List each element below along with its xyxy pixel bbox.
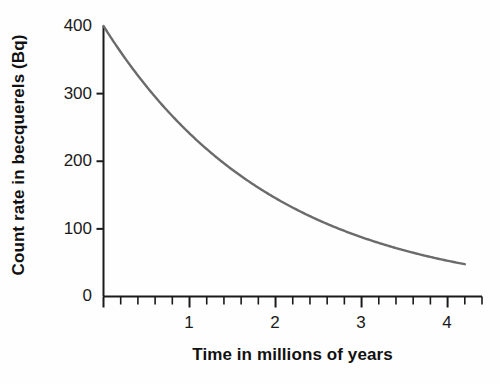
x-axis-title: Time in millions of years xyxy=(103,345,482,365)
decay-curve xyxy=(104,26,465,264)
x-tick-marks xyxy=(104,297,483,308)
x-tick-label-2: 2 xyxy=(270,313,279,333)
y-tick-label-300: 300 xyxy=(40,84,92,104)
y-tick-label-200: 200 xyxy=(40,151,92,171)
x-tick-label-4: 4 xyxy=(442,313,451,333)
y-axis-title-container: Count rate in becquerels (Bq) xyxy=(0,0,38,310)
x-axis-title-container: Time in millions of years xyxy=(103,345,482,365)
x-tick-label-1: 1 xyxy=(184,313,193,333)
decay-chart-figure: Count rate in becquerels (Bq) Time in mi… xyxy=(0,0,500,384)
y-tick-label-100: 100 xyxy=(40,219,92,239)
plot-area xyxy=(0,0,500,384)
x-tick-label-3: 3 xyxy=(356,313,365,333)
y-axis-title: Count rate in becquerels (Bq) xyxy=(9,35,29,276)
y-tick-marks xyxy=(97,94,104,229)
y-tick-label-400: 400 xyxy=(40,16,92,36)
y-tick-label-0: 0 xyxy=(40,286,92,306)
